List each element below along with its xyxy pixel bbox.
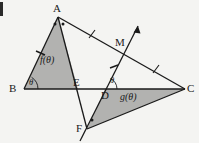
region-label-g-theta: g(θ) — [120, 92, 137, 102]
geometry-canvas — [0, 0, 199, 143]
geometry-figure: A B C E D F M f(θ) g(θ) θ θ — [0, 0, 199, 143]
vertex-label-a: A — [53, 3, 61, 14]
dot-at-f — [91, 119, 94, 122]
vertex-label-m: M — [115, 37, 125, 48]
tick-mark-mc — [153, 65, 159, 73]
vertex-label-e: E — [73, 77, 80, 88]
line-fdm — [80, 26, 138, 141]
dot-at-a-left — [54, 23, 57, 26]
vertex-label-f: F — [76, 123, 82, 134]
vertex-label-d: D — [101, 90, 109, 101]
angle-label-at-b: θ — [29, 78, 33, 87]
angle-label-at-d: θ — [110, 76, 114, 85]
vertex-label-c: C — [187, 83, 194, 94]
dot-at-a-right — [62, 23, 65, 26]
region-label-f-theta: f(θ) — [40, 55, 54, 65]
vertex-label-b: B — [9, 83, 16, 94]
